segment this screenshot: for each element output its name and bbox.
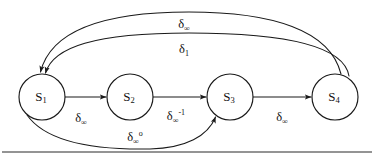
node-label-subscript: 2 [130,95,134,105]
edge-s4-to-s1-inner: δ1 [46,33,350,76]
edge-path-s4-s1-inner [46,33,350,76]
edge-label-subscript: 1 [185,49,189,58]
node-label-subscript: 3 [230,95,234,105]
node-s4[interactable]: S4 [312,74,358,120]
edge-path-s1-s3-bottom [27,115,216,149]
node-label-base: S [123,89,130,104]
node-s1[interactable]: S1 [19,74,65,120]
edge-s2-to-s3: δ∞-1 [153,97,206,125]
node-label-base: S [328,89,335,104]
edge-label-s4-s1-inner: δ1 [179,42,189,58]
edge-label-subscript: ∞ [184,24,190,33]
node-s3[interactable]: S3 [207,74,253,120]
edge-s1-to-s3-bottom: δ∞o [27,115,216,149]
edge-label-subscript: ∞ [81,118,87,127]
edge-s3-to-s4: δ∞ [253,97,311,126]
edge-label-subscript: ∞ [173,116,179,125]
edge-label-subscript: ∞ [282,117,288,126]
node-label-base: S [35,89,42,104]
node-s2[interactable]: S2 [107,74,153,120]
state-transition-diagram: δ∞ δ1 δ∞o δ∞ δ∞-1 [0,0,374,164]
edge-label-subscript: ∞ [133,137,139,146]
edge-label-s1-s3-bottom: δ∞o [127,129,143,147]
edge-label-s2-s3: δ∞-1 [167,108,185,126]
node-label-base: S [223,89,230,104]
node-label-subscript: 1 [42,95,46,105]
edge-label-superscript: o [139,129,143,138]
edge-label-s1-s2: δ∞ [75,111,87,127]
edge-s1-to-s2: δ∞ [65,97,106,127]
diagram-canvas: δ∞ δ1 δ∞o δ∞ δ∞-1 [0,0,374,164]
edge-label-s3-s4: δ∞ [276,110,288,126]
edge-label-superscript: -1 [178,108,185,117]
node-label-subscript: 4 [335,95,340,105]
edge-label-s4-s1-outer: δ∞ [178,17,190,33]
